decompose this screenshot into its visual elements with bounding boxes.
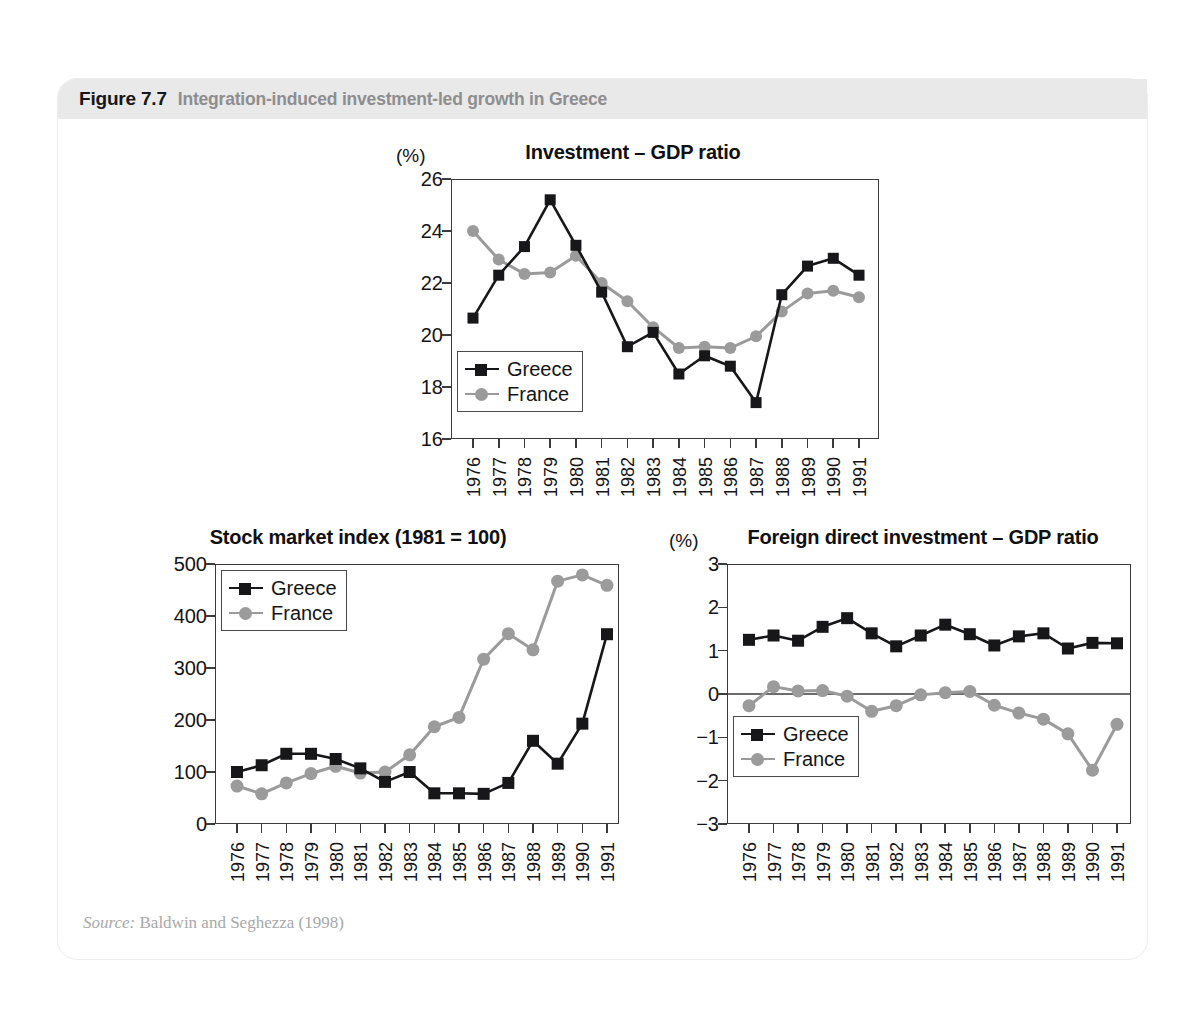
y-tick-label: 300	[153, 657, 207, 680]
x-tick-mark	[858, 439, 860, 448]
data-point	[648, 327, 659, 338]
figure-source: Source: Baldwin and Seghezza (1998)	[83, 913, 344, 933]
y-tick-mark	[718, 650, 727, 652]
x-tick-mark	[549, 439, 551, 448]
y-tick-label: 100	[153, 761, 207, 784]
x-tick-mark	[458, 824, 460, 833]
y-tick-mark	[206, 719, 215, 721]
x-tick-label: 1987	[499, 842, 520, 882]
x-tick-mark	[335, 824, 337, 833]
data-point	[964, 628, 976, 640]
x-tick-label: 1985	[696, 457, 717, 497]
x-tick-label: 1977	[253, 842, 274, 882]
x-tick-label: 1976	[228, 842, 249, 882]
source-label: Source:	[83, 913, 135, 932]
data-point	[776, 289, 787, 300]
y-tick-mark	[718, 563, 727, 565]
x-tick-mark	[846, 824, 848, 833]
data-point	[576, 718, 588, 730]
data-point	[354, 762, 366, 774]
data-point	[1086, 764, 1099, 777]
series-greece	[743, 612, 1123, 654]
data-point	[1086, 637, 1098, 649]
data-point	[1037, 627, 1049, 639]
y-tick-mark	[442, 230, 451, 232]
data-point	[802, 287, 814, 299]
y-tick-mark	[442, 282, 451, 284]
y-tick-mark	[718, 823, 727, 825]
y-tick-mark	[206, 771, 215, 773]
x-tick-mark	[360, 824, 362, 833]
y-tick-mark	[718, 780, 727, 782]
data-point	[545, 194, 556, 205]
data-point	[699, 350, 710, 361]
y-tick-mark	[442, 386, 451, 388]
x-tick-mark	[498, 439, 500, 448]
data-point	[404, 766, 416, 778]
data-point	[280, 776, 293, 789]
y-tick-label: 26	[389, 168, 443, 191]
x-tick-label: 1978	[789, 842, 810, 882]
x-tick-label: 1984	[936, 842, 957, 882]
data-point	[1111, 718, 1124, 731]
x-tick-label: 1985	[450, 842, 471, 882]
data-point	[576, 568, 589, 581]
data-point	[1061, 727, 1074, 740]
data-point	[551, 575, 564, 588]
x-tick-label: 1989	[1059, 842, 1080, 882]
data-point	[915, 630, 927, 642]
data-point	[792, 635, 804, 647]
x-tick-label: 1978	[515, 457, 536, 497]
legend-marker-france-icon	[465, 387, 499, 401]
x-tick-mark	[1092, 824, 1094, 833]
x-tick-mark	[1067, 824, 1069, 833]
x-tick-label: 1982	[618, 457, 639, 497]
x-tick-label: 1991	[850, 457, 871, 497]
x-tick-label: 1983	[644, 457, 665, 497]
data-point	[493, 254, 505, 266]
x-tick-label: 1990	[1083, 842, 1104, 882]
data-point	[467, 225, 479, 237]
x-tick-mark	[773, 824, 775, 833]
y-tick-mark	[442, 334, 451, 336]
data-point	[596, 287, 607, 298]
legend-entry-greece: Greece	[741, 721, 849, 746]
x-tick-mark	[286, 824, 288, 833]
data-point	[767, 680, 780, 693]
x-tick-mark	[678, 439, 680, 448]
figure-title: Integration-induced investment-led growt…	[178, 89, 607, 110]
legend-label-france: France	[783, 749, 845, 769]
data-point	[725, 361, 736, 372]
data-point	[673, 342, 685, 354]
x-tick-label: 1988	[524, 842, 545, 882]
x-tick-mark	[627, 439, 629, 448]
x-tick-mark	[483, 824, 485, 833]
x-tick-mark	[895, 824, 897, 833]
legend-marker-greece-icon	[741, 727, 775, 741]
x-tick-label: 1986	[985, 842, 1006, 882]
chart-2-legend: Greece France	[221, 570, 347, 631]
data-point	[724, 342, 736, 354]
data-point	[478, 788, 490, 800]
x-tick-label: 1986	[475, 842, 496, 882]
data-point	[743, 634, 755, 646]
x-tick-label: 1983	[401, 842, 422, 882]
chart-stock-market-index: Stock market index (1981 = 100) 01002003…	[93, 526, 613, 916]
x-tick-label: 1979	[814, 842, 835, 882]
figure-header-bar: Figure 7.7 Integration-induced investmen…	[58, 79, 1147, 119]
data-point	[988, 699, 1001, 712]
x-tick-label: 1977	[765, 842, 786, 882]
x-tick-label: 1979	[541, 457, 562, 497]
y-tick-label: 24	[389, 220, 443, 243]
data-point	[428, 720, 441, 733]
x-tick-mark	[652, 439, 654, 448]
x-tick-mark	[508, 824, 510, 833]
data-point	[527, 643, 540, 656]
data-point	[256, 759, 268, 771]
x-tick-mark	[532, 824, 534, 833]
x-tick-mark	[797, 824, 799, 833]
data-point	[816, 684, 829, 697]
x-tick-label: 1991	[1108, 842, 1129, 882]
y-tick-label: 16	[389, 428, 443, 451]
y-tick-mark	[718, 607, 727, 609]
